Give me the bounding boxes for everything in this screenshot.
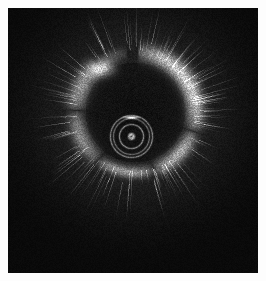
ivus-cross-section-canvas bbox=[8, 8, 258, 273]
scan-frame bbox=[8, 8, 258, 273]
ivus-image-viewer bbox=[0, 0, 266, 281]
